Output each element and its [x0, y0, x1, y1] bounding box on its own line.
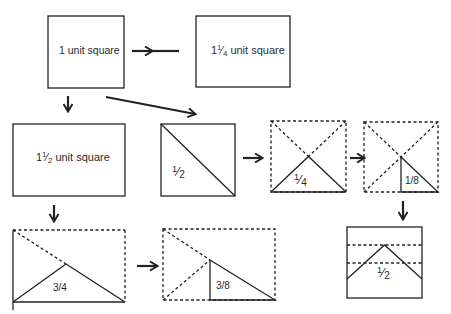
label-1-and-quarter-unit-square: 11⁄4 unit square: [211, 44, 285, 58]
numerator: 1: [294, 172, 299, 182]
label-quarter: 1⁄4: [294, 172, 307, 188]
label-1-unit-square: 1 unit square: [59, 44, 120, 56]
box-half-folded: [347, 227, 422, 298]
label-one-eighth: 1/8: [405, 175, 419, 186]
numerator: 1: [377, 265, 382, 275]
box-quarter-triangle: [271, 121, 346, 192]
numerator: 1: [42, 151, 46, 158]
label-1-and-half-unit-square: 11⁄2 unit square: [36, 151, 110, 165]
box-half-diagonal: [161, 124, 235, 196]
suffix: unit square: [227, 44, 284, 56]
label-half-folded: 1⁄2: [377, 265, 390, 281]
label-half: 1⁄2: [172, 164, 185, 180]
suffix: unit square: [52, 151, 109, 163]
box-eighth-triangle: [364, 122, 438, 192]
label-three-quarters: 3/4: [53, 282, 67, 293]
arrow-diagonal-icon: [106, 97, 195, 114]
denominator: 2: [179, 169, 185, 180]
denominator: 4: [301, 177, 307, 188]
label-three-eighths: 3/8: [216, 280, 230, 291]
numerator: 1: [217, 44, 221, 51]
rect-three-quarter-triangle: [13, 230, 125, 310]
denominator: 2: [384, 270, 390, 281]
numerator: 1: [172, 164, 177, 174]
